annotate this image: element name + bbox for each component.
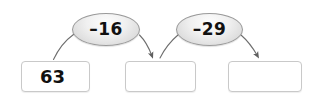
diagram-canvas: –16 –29 63 <box>0 0 310 99</box>
operation-bubble-label: –16 <box>89 21 123 38</box>
value-box-answer-1[interactable] <box>125 61 196 92</box>
connector-box1-to-bubble1 <box>54 35 74 60</box>
operation-bubble-minus-29: –29 <box>176 13 243 46</box>
value-box-text: 63 <box>22 68 65 86</box>
connector-box2-to-bubble2 <box>160 35 179 59</box>
operation-bubble-minus-16: –16 <box>72 13 140 46</box>
value-box-start[interactable]: 63 <box>21 61 90 92</box>
operation-bubble-label: –29 <box>193 21 227 38</box>
connector-bubble2-to-box3 <box>241 35 257 56</box>
value-box-answer-2[interactable] <box>228 61 302 92</box>
connector-bubble1-to-box2 <box>140 35 152 56</box>
